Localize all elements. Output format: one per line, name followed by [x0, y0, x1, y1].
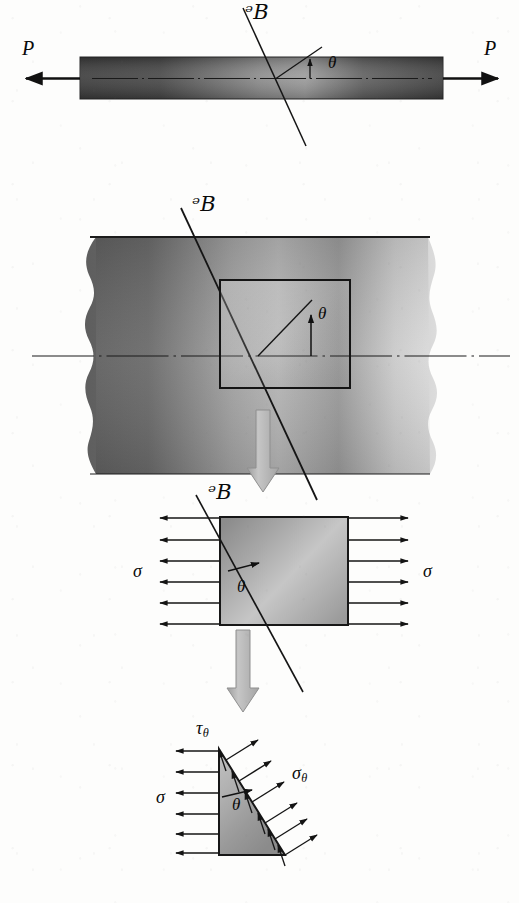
theta-label-panel3: θ: [237, 578, 245, 595]
stress-element-outline: [220, 280, 350, 388]
sigma-theta-label-panel4: σθ: [292, 764, 307, 785]
theta-label-panel4: θ: [232, 796, 240, 813]
theta-label-panel1: θ: [328, 54, 336, 71]
section-plane-label-panel1: ᵊB: [245, 2, 269, 23]
panel-3-stress-element: [160, 495, 408, 692]
sigma-theta-subscript: θ: [301, 771, 307, 785]
tau-theta-subscript: θ: [203, 726, 209, 740]
stress-on-inclined-section-figure: P P ᵊB θ ᵊB θ ᵊB θ σ σ σ σθ τθ θ: [0, 0, 519, 903]
flow-arrow-panel3-to-panel4: [227, 630, 259, 712]
figure-canvas: [0, 0, 519, 903]
sigma-label-right-panel3: σ: [423, 562, 432, 580]
sigma-arrows-right: [348, 518, 408, 624]
sigma-arrows-left: [160, 518, 220, 624]
panel-2-enlarged-block: [32, 208, 510, 500]
section-plane-label-panel3: ᵊB: [208, 482, 232, 503]
section-plane-label-panel2: ᵊB: [192, 194, 216, 215]
tau-theta-base: τ: [196, 718, 202, 738]
sigma-theta-base: σ: [292, 763, 301, 783]
stress-element: [220, 517, 348, 625]
panel-1-prismatic-bar: [26, 8, 498, 146]
tau-theta-label-panel4: τθ: [196, 719, 209, 740]
load-label-P-left: P: [22, 38, 34, 58]
theta-label-panel2: θ: [318, 305, 326, 322]
sigma-label-panel4: σ: [156, 788, 165, 806]
sigma-label-left-panel3: σ: [133, 562, 142, 580]
panel-4-wedge-free-body: [176, 740, 317, 866]
sigma-arrows-left: [176, 751, 219, 853]
load-label-P-right: P: [484, 38, 496, 58]
